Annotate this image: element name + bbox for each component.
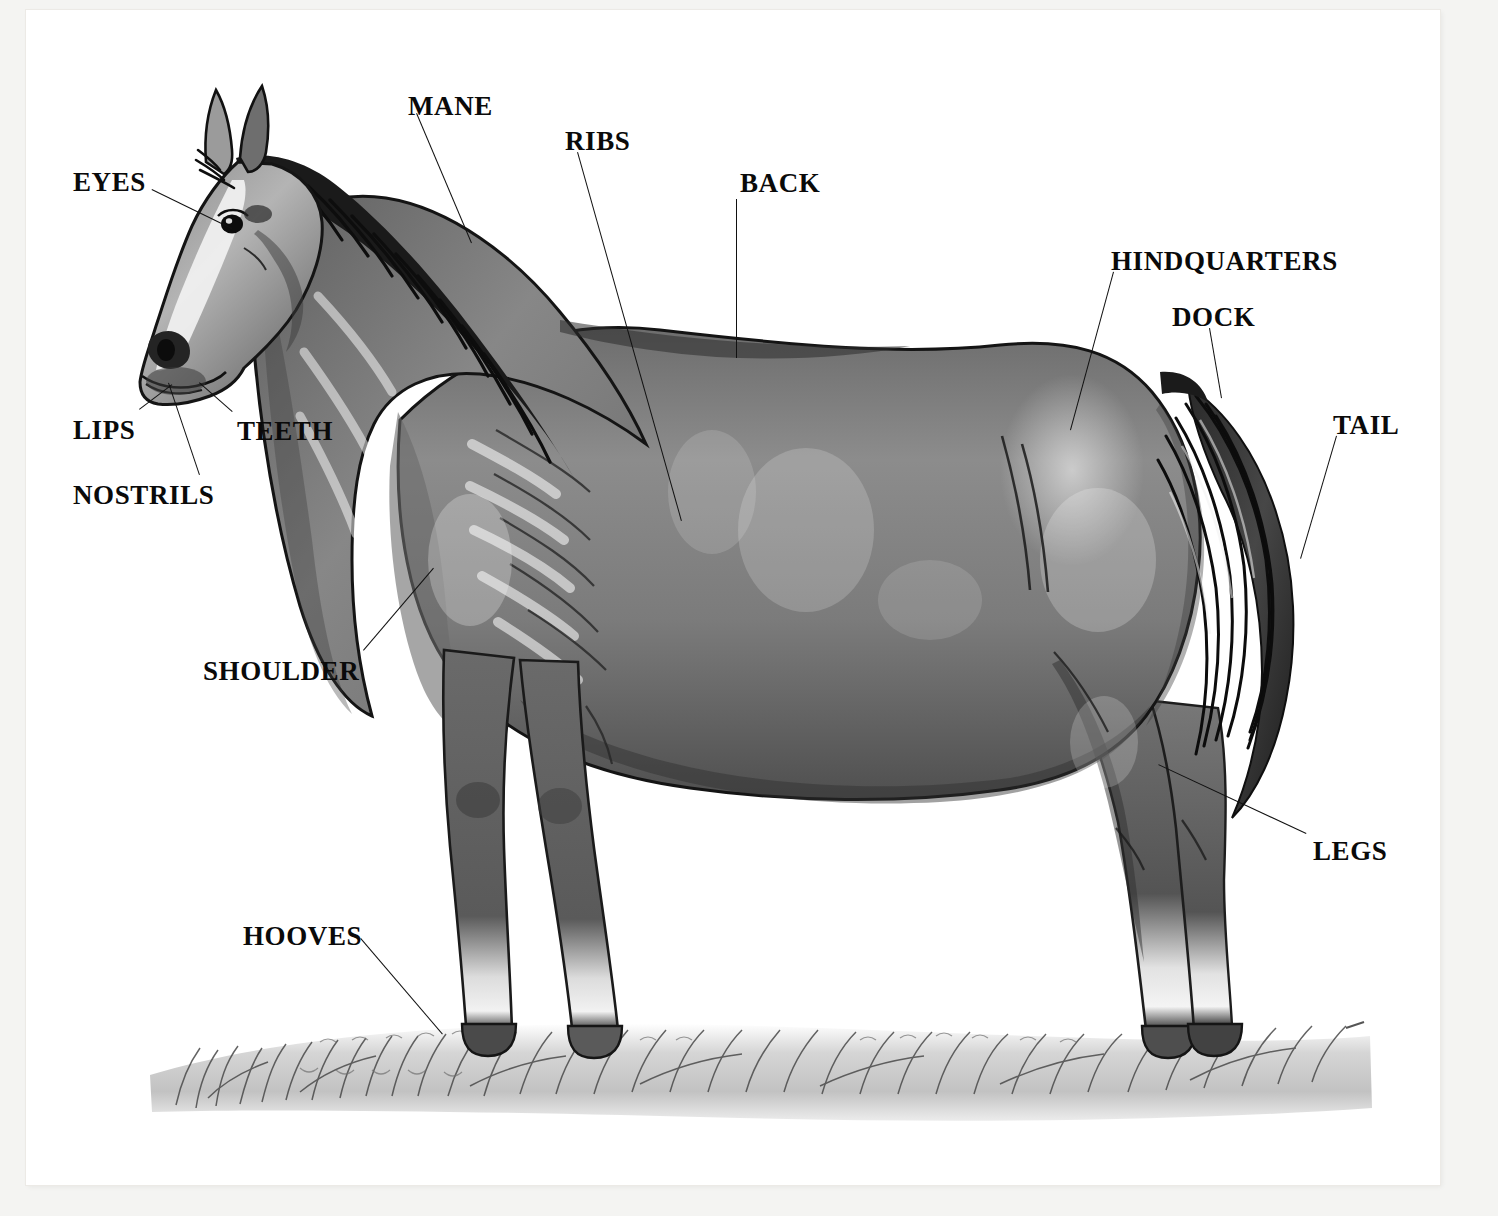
label-back: BACK bbox=[740, 170, 820, 197]
label-lips: LIPS bbox=[73, 417, 135, 444]
label-teeth: TEETH bbox=[237, 418, 333, 445]
diagram-page: EYESMANERIBSBACKHINDQUARTERSDOCKTAILLIPS… bbox=[0, 0, 1498, 1216]
label-shoulder: SHOULDER bbox=[203, 658, 359, 685]
back-leader bbox=[736, 199, 737, 358]
label-ribs: RIBS bbox=[565, 128, 630, 155]
label-hindquarters: HINDQUARTERS bbox=[1111, 248, 1338, 275]
label-legs: LEGS bbox=[1313, 838, 1387, 865]
label-dock: DOCK bbox=[1172, 304, 1255, 331]
label-mane: MANE bbox=[408, 93, 493, 120]
label-hooves: HOOVES bbox=[243, 923, 362, 950]
label-tail: TAIL bbox=[1333, 412, 1399, 439]
label-eyes: EYES bbox=[73, 169, 146, 196]
horse-body bbox=[140, 86, 1293, 1058]
label-nostrils: NOSTRILS bbox=[73, 482, 214, 509]
